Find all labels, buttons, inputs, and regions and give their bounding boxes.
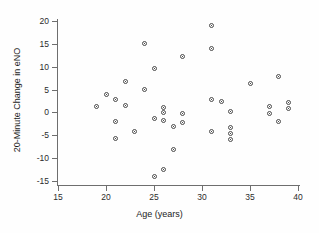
data-point — [286, 106, 291, 111]
data-point — [267, 104, 272, 109]
data-point — [161, 167, 166, 172]
y-tick-label: 20 — [23, 17, 49, 25]
y-tick-label: -10 — [23, 154, 49, 162]
data-point — [142, 41, 147, 46]
data-point — [248, 81, 253, 86]
data-point — [152, 174, 157, 179]
y-tick-mark — [52, 112, 57, 113]
y-axis-title: 20-Minute Change in eNO — [12, 20, 22, 180]
x-tick-mark — [154, 186, 155, 191]
y-tick-label: 10 — [23, 63, 49, 71]
scatter-plot-figure: -15-10-505101520 152025303540 Age (years… — [0, 0, 319, 233]
y-tick-mark — [52, 181, 57, 182]
data-point — [132, 129, 137, 134]
data-point — [180, 120, 185, 125]
plot-area — [58, 21, 298, 181]
x-tick-mark — [202, 186, 203, 191]
x-tick-label: 25 — [141, 192, 167, 202]
x-tick-label: 40 — [285, 192, 311, 202]
data-point — [142, 87, 147, 92]
data-point — [267, 111, 272, 116]
data-point — [171, 124, 176, 129]
data-point — [104, 92, 109, 97]
data-point — [123, 103, 128, 108]
x-tick-mark — [298, 186, 299, 191]
x-tick-label: 20 — [93, 192, 119, 202]
data-point — [161, 110, 166, 115]
data-point — [209, 46, 214, 51]
data-point — [161, 118, 166, 123]
x-tick-label: 15 — [45, 192, 71, 202]
y-tick-mark — [52, 44, 57, 45]
y-tick-label: 0 — [23, 108, 49, 116]
y-tick-label: -5 — [23, 131, 49, 139]
x-tick-mark — [58, 186, 59, 191]
y-tick-mark — [52, 90, 57, 91]
data-point — [123, 79, 128, 84]
x-tick-label: 35 — [237, 192, 263, 202]
data-point — [171, 147, 176, 152]
data-point — [152, 66, 157, 71]
data-point — [286, 100, 291, 105]
y-tick-mark — [52, 21, 57, 22]
data-point — [209, 23, 214, 28]
y-tick-label: -15 — [23, 177, 49, 185]
data-point — [209, 129, 214, 134]
x-tick-mark — [250, 186, 251, 191]
x-axis-line — [57, 185, 300, 186]
y-tick-mark — [52, 135, 57, 136]
y-tick-mark — [52, 67, 57, 68]
y-tick-label: 5 — [23, 86, 49, 94]
y-tick-label: 15 — [23, 40, 49, 48]
y-tick-mark — [52, 158, 57, 159]
data-point — [219, 99, 224, 104]
x-axis-title: Age (years) — [0, 209, 319, 219]
data-point — [152, 116, 157, 121]
x-tick-mark — [106, 186, 107, 191]
x-tick-label: 30 — [189, 192, 215, 202]
